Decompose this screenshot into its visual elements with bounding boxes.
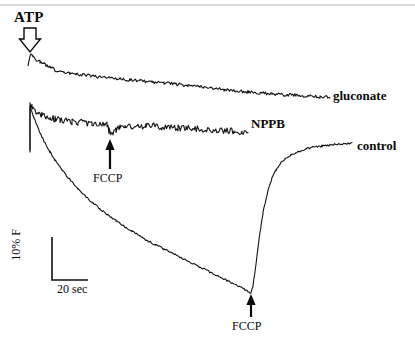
nppb-trace-label: NPPB xyxy=(251,117,285,130)
fluorescence-scale-label: 10% F xyxy=(10,223,22,267)
trace-nppb xyxy=(30,103,248,150)
scale-bar xyxy=(52,237,88,280)
control-trace-label: control xyxy=(357,139,396,152)
scale-bar-path xyxy=(52,237,88,280)
fccp-nppb-label: FCCP xyxy=(93,172,122,184)
fccp-control-label: FCCP xyxy=(232,320,261,332)
fccp-nppb-up-arrow-icon xyxy=(105,139,114,169)
time-scale-label: 20 sec xyxy=(57,283,87,295)
trace-control xyxy=(30,107,352,294)
trace-group xyxy=(28,54,352,293)
trace-gluconate xyxy=(28,54,330,98)
atp-down-arrow-icon xyxy=(20,28,41,52)
fccp-control-up-arrow-icon xyxy=(246,294,255,317)
gluconate-trace-label: gluconate xyxy=(333,89,386,102)
atp-label: ATP xyxy=(14,10,44,25)
figure-panel: ATP gluconate NPPB control FCCP FCCP 20 … xyxy=(0,0,415,345)
